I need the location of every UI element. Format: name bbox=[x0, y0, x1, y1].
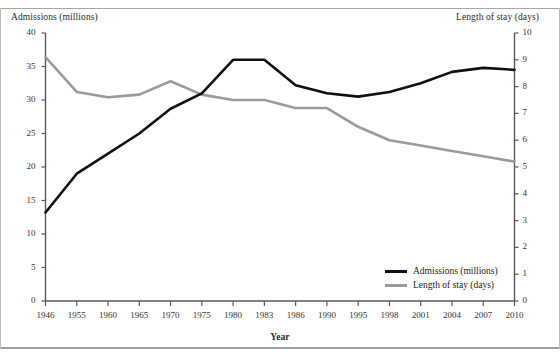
legend-swatch-icon-length-of-stay bbox=[385, 284, 407, 287]
chart-legend: Admissions (millions) Length of stay (da… bbox=[385, 264, 498, 292]
chart-figure: Admissions (millions) Length of stay (da… bbox=[0, 0, 560, 359]
left-tick-label-20: 20 bbox=[16, 161, 36, 171]
left-tick-label-15: 15 bbox=[16, 195, 36, 205]
left-tick-label-30: 30 bbox=[16, 94, 36, 104]
right-tick-label-9: 9 bbox=[523, 54, 543, 64]
right-tick-label-8: 8 bbox=[523, 81, 543, 91]
right-tick-label-2: 2 bbox=[523, 241, 543, 251]
right-tick-label-0: 0 bbox=[523, 295, 543, 305]
left-tick-label-40: 40 bbox=[16, 27, 36, 37]
legend-swatch-icon-admissions bbox=[385, 270, 407, 273]
legend-label-admissions: Admissions (millions) bbox=[413, 266, 498, 276]
right-tick-label-4: 4 bbox=[523, 188, 543, 198]
right-tick-label-1: 1 bbox=[523, 268, 543, 278]
right-tick-label-10: 10 bbox=[523, 27, 543, 37]
right-tick-label-3: 3 bbox=[523, 215, 543, 225]
left-tick-label-25: 25 bbox=[16, 128, 36, 138]
right-tick-label-7: 7 bbox=[523, 107, 543, 117]
legend-item-admissions: Admissions (millions) bbox=[385, 264, 498, 278]
x-tick-label-2010: 2010 bbox=[495, 310, 535, 320]
legend-item-length-of-stay: Length of stay (days) bbox=[385, 278, 498, 292]
legend-label-length-of-stay: Length of stay (days) bbox=[413, 280, 494, 290]
left-tick-label-0: 0 bbox=[16, 295, 36, 305]
left-tick-label-35: 35 bbox=[16, 61, 36, 71]
series-line-admissions bbox=[46, 60, 515, 213]
left-tick-label-5: 5 bbox=[16, 262, 36, 272]
left-tick-label-10: 10 bbox=[16, 228, 36, 238]
right-tick-label-5: 5 bbox=[523, 161, 543, 171]
x-axis-ticks bbox=[46, 301, 515, 306]
right-tick-label-6: 6 bbox=[523, 134, 543, 144]
plot-area bbox=[0, 0, 560, 359]
